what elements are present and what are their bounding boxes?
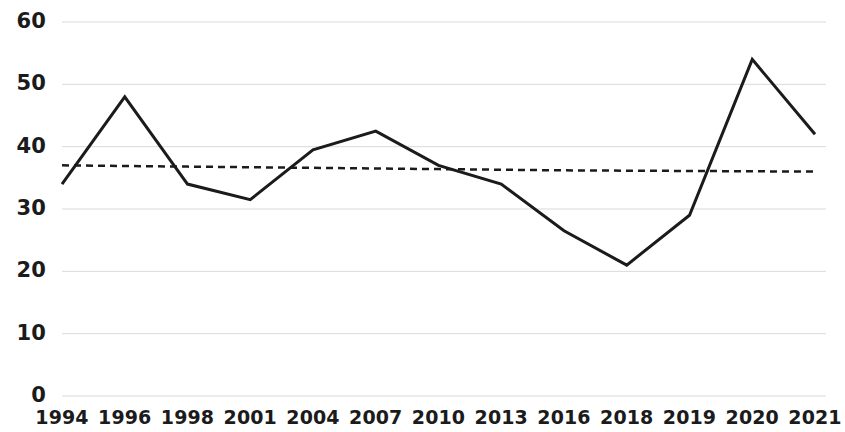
x-tick-label-2016: 2016 — [529, 408, 599, 427]
y-tick-label-50: 50 — [0, 73, 46, 94]
x-tick-label-2019: 2019 — [655, 408, 725, 427]
x-tick-label-2001: 2001 — [215, 408, 285, 427]
x-tick-label-2007: 2007 — [341, 408, 411, 427]
x-tick-label-2018: 2018 — [592, 408, 662, 427]
gridlines — [62, 22, 826, 396]
data-series-layer — [62, 59, 815, 265]
y-tick-label-10: 10 — [0, 323, 46, 344]
y-tick-label-60: 60 — [0, 11, 46, 32]
x-tick-label-2021: 2021 — [780, 408, 845, 427]
y-tick-label-20: 20 — [0, 260, 46, 281]
y-tick-label-40: 40 — [0, 136, 46, 157]
x-tick-label-2020: 2020 — [717, 408, 787, 427]
y-tick-label-0: 0 — [0, 385, 46, 406]
x-tick-label-1996: 1996 — [90, 408, 160, 427]
x-tick-label-1998: 1998 — [153, 408, 223, 427]
x-tick-label-2004: 2004 — [278, 408, 348, 427]
series-line-value — [62, 59, 815, 265]
x-tick-label-2013: 2013 — [466, 408, 536, 427]
x-tick-label-1994: 1994 — [27, 408, 97, 427]
y-tick-label-30: 30 — [0, 198, 46, 219]
x-tick-label-2010: 2010 — [404, 408, 474, 427]
